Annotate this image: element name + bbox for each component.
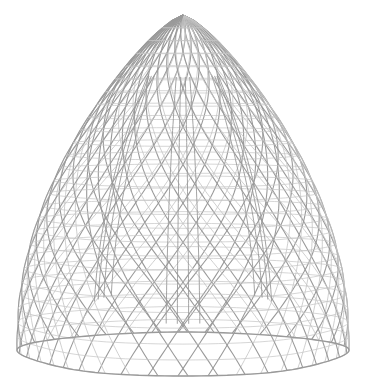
mesh-line: [43, 200, 324, 215]
mesh-line: [73, 140, 293, 147]
wireframe-figure: [0, 0, 366, 392]
mesh-line: [34, 223, 332, 242]
wireframe-mesh: [0, 0, 366, 392]
mesh-line: [115, 78, 251, 80]
mesh-line: [88, 115, 278, 119]
mesh-line: [97, 103, 270, 106]
mesh-line: [47, 15, 183, 335]
mesh-line: [125, 66, 240, 67]
mesh-line: [183, 15, 312, 371]
mesh-line: [54, 15, 183, 371]
mesh-line: [20, 281, 347, 313]
mesh-line: [183, 15, 319, 335]
mesh-line: [136, 53, 229, 54]
mesh-line: [53, 176, 312, 187]
mesh-line: [106, 91, 261, 93]
